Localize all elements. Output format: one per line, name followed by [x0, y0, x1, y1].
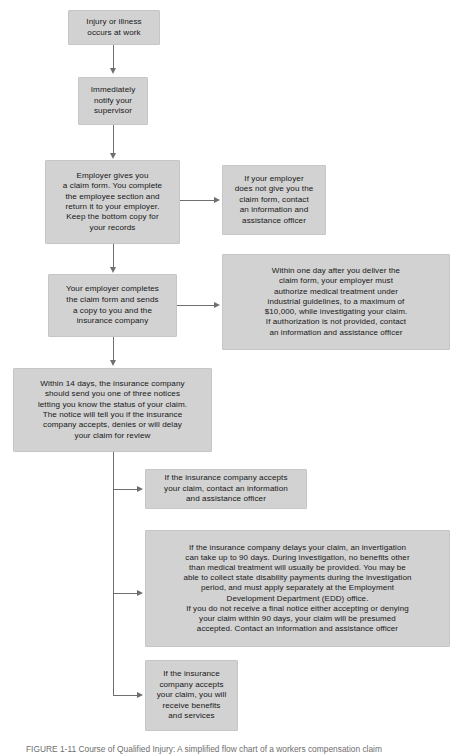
flowchart-figure: Injury or illness occurs at work Immedia…	[0, 0, 459, 756]
node-insurance-delays-claim: If the insurance company delays your cla…	[145, 530, 450, 647]
arrowhead-injury-to-notify	[110, 68, 116, 74]
node-employer-no-claim-form: If your employer does not give you the c…	[222, 165, 326, 235]
connector-injury-to-notify	[113, 45, 114, 70]
connector-employercompletes-to-oneday	[177, 305, 216, 306]
arrowhead-spine-to-delays	[137, 590, 143, 596]
arrowhead-claimform-to-employercompletes	[110, 267, 116, 273]
node-fourteen-days-notice: Within 14 days, the insurance company sh…	[13, 368, 212, 452]
connector-spine-to-delays	[113, 593, 139, 594]
node-one-day-authorization: Within one day after you deliver the cla…	[222, 254, 450, 350]
node-insurance-accepts-contact: If the insurance company accepts your cl…	[145, 469, 307, 509]
arrowhead-notify-to-claimform	[110, 153, 116, 159]
connector-notify-to-claimform	[113, 125, 114, 155]
connector-spine-to-accepts-contact	[113, 489, 139, 490]
arrowhead-employercompletes-to-oneday	[214, 302, 220, 308]
arrowhead-claimform-to-noform	[214, 197, 220, 203]
connector-claimform-to-employercompletes	[113, 244, 114, 269]
arrowhead-employercompletes-to-fourteendays	[110, 360, 116, 366]
node-notify-supervisor: Immediately notify your supervisor	[78, 77, 148, 125]
node-injury-or-illness: Injury or illness occurs at work	[68, 10, 160, 45]
node-insurance-accepts-benefits: If the insurance company accepts your cl…	[145, 660, 238, 731]
node-employer-gives-claim-form: Employer gives you a claim form. You com…	[45, 160, 180, 244]
connector-claimform-to-noform	[180, 200, 216, 201]
arrowhead-spine-to-accepts-benefits	[137, 692, 143, 698]
node-employer-completes-claim-form: Your employer completes the claim form a…	[48, 274, 177, 337]
connector-employercompletes-to-fourteendays	[113, 337, 114, 362]
figure-caption: FIGURE 1-11 Course of Qualified Injury: …	[26, 744, 446, 756]
connector-spine-to-accepts-benefits	[113, 695, 139, 696]
arrowhead-spine-to-accepts-contact	[137, 486, 143, 492]
